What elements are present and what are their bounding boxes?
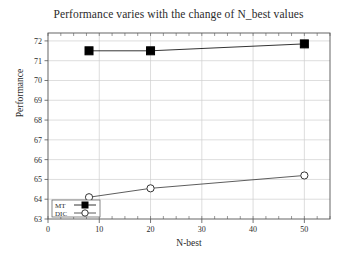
series-line-dic	[89, 175, 304, 197]
series-line-mt	[89, 44, 304, 51]
y-axis-tick-label: 69	[34, 96, 42, 105]
x-axis-tick-label: 30	[198, 225, 206, 234]
y-axis-tick-label: 67	[34, 136, 42, 145]
x-axis-tick-label: 10	[95, 225, 103, 234]
data-point-dic	[147, 185, 154, 192]
y-axis-tick-label: 64	[34, 195, 42, 204]
legend-marker-mt	[82, 202, 89, 209]
plot-area: 6364656667686970717201020304050MTDIC	[0, 0, 357, 261]
data-point-mt	[147, 47, 155, 55]
legend-marker-dic	[82, 210, 88, 216]
x-axis-tick-label: 0	[46, 225, 50, 234]
y-axis-tick-label: 71	[34, 57, 42, 66]
x-axis-tick-label: 20	[147, 225, 155, 234]
y-axis-tick-label: 66	[34, 156, 42, 165]
data-point-mt	[85, 47, 93, 55]
y-axis-tick-label: 72	[34, 37, 42, 46]
y-axis-tick-label: 68	[34, 116, 42, 125]
y-axis-tick-label: 63	[34, 215, 42, 224]
legend-label-dic: DIC	[55, 210, 67, 218]
data-point-dic	[301, 172, 308, 179]
chart-container: Performance varies with the change of N_…	[0, 0, 357, 261]
y-axis-tick-label: 70	[34, 76, 42, 85]
y-axis-tick-label: 65	[34, 175, 42, 184]
data-point-mt	[300, 40, 308, 48]
x-axis-tick-label: 50	[300, 225, 308, 234]
legend-label-mt: MT	[55, 202, 66, 210]
x-axis-tick-label: 40	[249, 225, 257, 234]
